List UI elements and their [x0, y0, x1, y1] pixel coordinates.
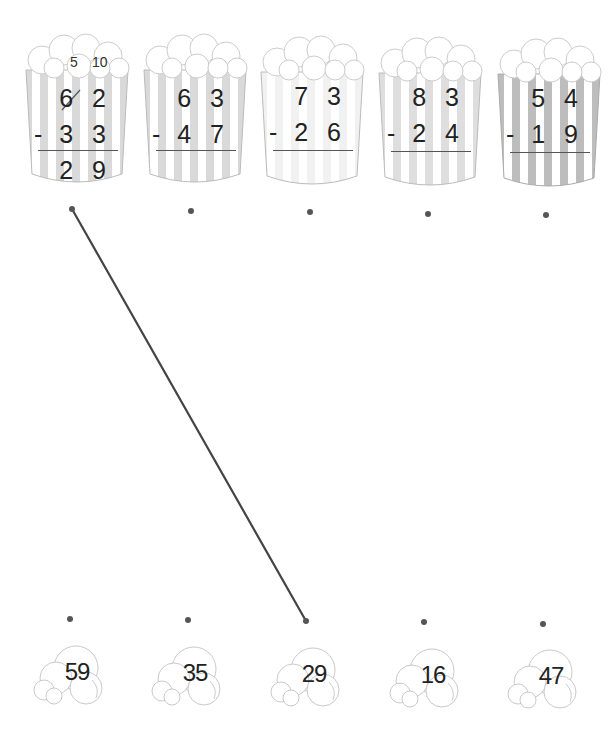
answer-rule — [391, 151, 471, 152]
problem-1-connector-dot[interactable] — [69, 206, 75, 212]
difference[interactable]: 2 9 — [59, 156, 112, 185]
subtrahend: 4 7 — [177, 120, 230, 149]
subtrahend: 2 4 — [412, 119, 465, 148]
answer-47-connector-dot[interactable] — [540, 621, 546, 627]
answer-rule — [38, 150, 118, 151]
answer-35-connector-dot[interactable] — [185, 617, 191, 623]
minus-sign: - — [269, 118, 277, 147]
problem-2-connector-dot[interactable] — [188, 208, 194, 214]
minuend: 5 4 — [531, 84, 584, 113]
minuend: 8 3 — [412, 83, 465, 112]
problem-5-connector-dot[interactable] — [543, 212, 549, 218]
minus-sign: - — [387, 119, 395, 148]
minuend: 6 2 — [59, 84, 112, 113]
popcorn-bucket-icon — [259, 34, 365, 194]
popcorn-bucket-icon — [496, 36, 602, 196]
minuend: 6 3 — [177, 84, 230, 113]
minuend: 7 3 — [294, 82, 347, 111]
answer-value: 47 — [528, 662, 574, 690]
minus-sign: - — [506, 120, 514, 149]
match-line-62-33-to-29 — [72, 209, 306, 621]
answer-rule — [510, 152, 590, 153]
popcorn-bucket-icon — [377, 35, 483, 195]
answer-59-connector-dot[interactable] — [67, 616, 73, 622]
answer-rule — [273, 150, 353, 151]
answer-cloud-3[interactable]: 29 — [263, 642, 353, 712]
answer-value: 16 — [410, 661, 456, 689]
subtrahend: 1 9 — [531, 120, 584, 149]
popcorn-bucket-problem-5: 5 4 - 1 9 — [496, 36, 602, 196]
answer-cloud-5[interactable]: 47 — [500, 644, 590, 714]
answer-rule — [156, 150, 236, 151]
answer-value: 35 — [172, 659, 218, 687]
minus-sign: - — [152, 120, 160, 149]
answer-cloud-4[interactable]: 16 — [382, 643, 472, 713]
answer-cloud-1[interactable]: 59 — [26, 640, 116, 710]
answer-cloud-2[interactable]: 35 — [144, 641, 234, 711]
problem-3-connector-dot[interactable] — [307, 209, 313, 215]
answer-16-connector-dot[interactable] — [421, 619, 427, 625]
popcorn-bucket-problem-3: 7 3 - 2 6 — [259, 34, 365, 194]
popcorn-bucket-problem-2: 6 3 - 4 7 — [142, 32, 248, 192]
popcorn-bucket-problem-4: 8 3 - 2 4 — [377, 35, 483, 195]
minus-sign: - — [34, 120, 42, 149]
problem-4-connector-dot[interactable] — [425, 211, 431, 217]
subtrahend: 2 6 — [294, 118, 347, 147]
answer-29-connector-dot[interactable] — [303, 618, 309, 624]
subtrahend: 3 3 — [59, 120, 112, 149]
answer-value: 29 — [291, 660, 337, 688]
popcorn-bucket-problem-1: 5 10 6 2 - 3 3 2 9 — [24, 32, 130, 192]
answer-value: 59 — [54, 658, 100, 686]
